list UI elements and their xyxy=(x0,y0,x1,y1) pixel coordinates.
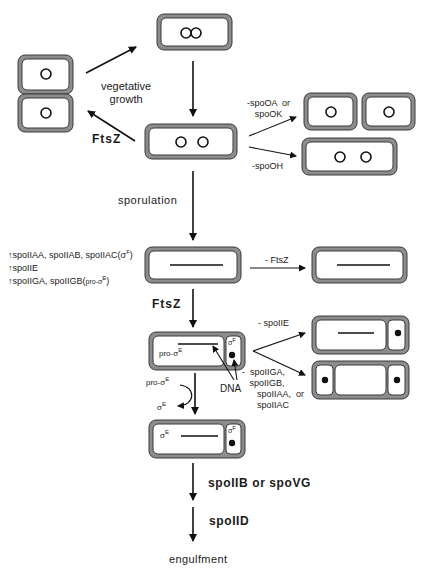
cell-spo0a-mutant-left xyxy=(304,93,357,130)
cell-daughter-lower xyxy=(18,94,73,132)
label-pro-sigma-e-arc: pro-σE xyxy=(146,379,169,387)
arrow-minus-spoiie xyxy=(253,333,305,351)
label-sigma-f-bottom: σF xyxy=(228,427,236,434)
label-minus-ftsz: - FtsZ xyxy=(265,256,289,265)
pathway-arrows xyxy=(86,47,195,541)
label-minus-spoiie: - spoIIE xyxy=(258,319,289,328)
cell-daughter-upper xyxy=(18,55,73,94)
label-ftsz-septation: FtsZ xyxy=(152,298,181,310)
label-spoiid: spoIID xyxy=(209,515,249,527)
label-sigma-e-cell: σE xyxy=(160,432,169,440)
cell-elongated-two-nucleoids xyxy=(145,124,237,159)
arrow-spo0h xyxy=(249,147,296,156)
label-ftsz-division: FtsZ xyxy=(92,133,121,145)
label-spo0h: -spoOH xyxy=(252,162,283,171)
label-pro-sigma-e-cell: pro-σE xyxy=(159,350,182,358)
label-dna: DNA xyxy=(220,384,241,394)
gene-induction-list: ↑spoIIAA, spoIIAB, spoIIAC(σF) ↑spoIIE ↑… xyxy=(8,251,133,290)
cell-ftsz-mutant xyxy=(312,247,407,283)
cell-disporic-mutant xyxy=(312,361,409,399)
label-engulfment: engulfment xyxy=(169,554,227,565)
label-spoiib-spovg: spoIIB or spoVG xyxy=(208,477,311,489)
label-spo0a-spo0k: -spoOA or spoOK xyxy=(247,98,290,120)
forespore-dna-icon xyxy=(229,352,235,358)
cell-dividing-top xyxy=(157,14,232,50)
label-sigma-e-arc: σE xyxy=(157,404,166,412)
label-sigma-f: σF xyxy=(228,339,236,346)
cell-spo0h-mutant xyxy=(302,138,397,175)
label-vegetative-growth: vegetative growth xyxy=(101,80,151,106)
gene-list-item: ↑spoIIGA, spoIIGB(pro-σE) xyxy=(8,277,133,290)
cell-spo0a-mutant-right xyxy=(362,93,415,130)
cell-axial-filament xyxy=(145,247,241,283)
label-sporulation: sporulation xyxy=(118,195,177,206)
label-minus-spoiiga-group: - spoIIGA, spoIIGB, spoIIAA, or spoIIAC xyxy=(242,367,304,411)
cell-spoiie-mutant xyxy=(312,316,409,354)
arrow-to-dividing xyxy=(86,47,136,73)
processing-arc xyxy=(178,385,192,406)
